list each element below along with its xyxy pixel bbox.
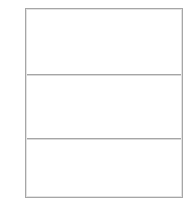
table-cell[interactable] (26, 75, 182, 137)
table-row[interactable] (26, 9, 182, 74)
table-row[interactable] (26, 74, 182, 137)
table-cell[interactable] (26, 9, 182, 74)
page-canvas (0, 0, 191, 204)
table-cell[interactable] (26, 139, 182, 197)
table-row[interactable] (26, 138, 182, 197)
empty-three-row-table (25, 8, 183, 198)
